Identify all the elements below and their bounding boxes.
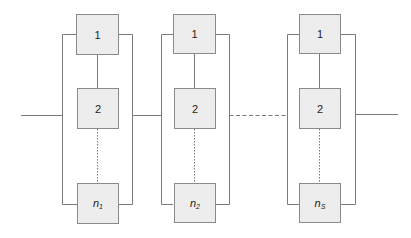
- block-label: 2: [192, 103, 198, 115]
- stage-1-block-1: 1: [76, 14, 119, 55]
- stage-1-block-2: 2: [77, 88, 119, 129]
- stage-2-block-2: 2: [174, 88, 216, 129]
- stage-S-right-rail: [341, 35, 356, 205]
- stage-S-block-1: 1: [299, 14, 341, 54]
- stage-S-block-2: 2: [299, 88, 341, 129]
- block-label: n1: [93, 197, 103, 210]
- stage-1-left-rail: [63, 35, 78, 205]
- block-label: n2: [190, 197, 200, 210]
- block-label: 1: [191, 28, 197, 40]
- stage-2-block-n: n2: [174, 183, 216, 223]
- block-label: 1: [94, 29, 100, 41]
- stage-S-left-rail: [288, 35, 300, 205]
- block-label: nS: [315, 197, 326, 210]
- stage-2-right-rail: [216, 35, 230, 205]
- stage-1-right-rail: [118, 35, 133, 205]
- stage-1-block-n: n1: [77, 183, 119, 224]
- block-label: 2: [95, 103, 101, 115]
- block-label: 2: [317, 103, 323, 115]
- stage-2-left-rail: [162, 35, 174, 205]
- block-label: 1: [317, 28, 323, 40]
- stage-S-block-n: nS: [299, 183, 341, 223]
- stage-2-block-1: 1: [173, 14, 216, 54]
